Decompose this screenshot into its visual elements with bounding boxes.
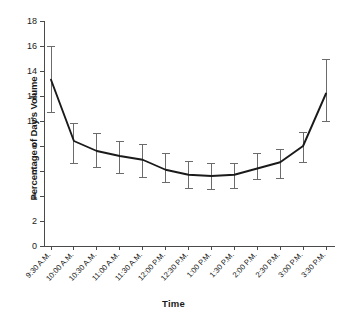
error-bar	[70, 124, 78, 164]
y-tick-label: 4	[32, 191, 37, 201]
error-bar	[230, 164, 238, 189]
x-axis-title: Time	[0, 298, 347, 309]
y-tick-label: 12	[27, 91, 37, 101]
error-bar	[253, 154, 261, 180]
chart-figure: Percentage of Day's Volume 0246810121416…	[0, 0, 347, 317]
y-tick-label: 14	[27, 66, 37, 76]
y-tick-label: 16	[27, 41, 37, 51]
y-tick-label: 10	[27, 116, 37, 126]
error-bar	[322, 60, 330, 121]
line-chart-plot: 0246810121416189:30 A.M.10:00 A.M.10:30 …	[0, 0, 347, 317]
y-tick-label: 8	[32, 141, 37, 151]
y-tick-label: 18	[27, 16, 37, 26]
x-tick-label: 3:30 P.M.	[299, 250, 327, 279]
y-tick-label: 6	[32, 166, 37, 176]
error-bar	[276, 150, 284, 179]
y-tick-label: 0	[32, 241, 37, 251]
y-tick-label: 2	[32, 216, 37, 226]
